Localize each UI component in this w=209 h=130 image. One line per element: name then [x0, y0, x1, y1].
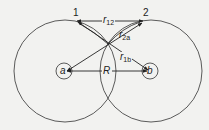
r1b-label: r1b — [119, 52, 132, 63]
electron-1-label: 1 — [73, 8, 79, 18]
R-label: R — [103, 66, 110, 76]
electron-2-label: 2 — [143, 8, 149, 18]
nucleus-a-label: a — [60, 66, 66, 76]
electron-path-1 — [80, 24, 108, 44]
r2a-label: r2a — [119, 30, 130, 41]
r12-label: r12 — [102, 15, 115, 26]
nucleus-b-label: b — [147, 66, 153, 76]
r2a-line — [67, 23, 142, 71]
